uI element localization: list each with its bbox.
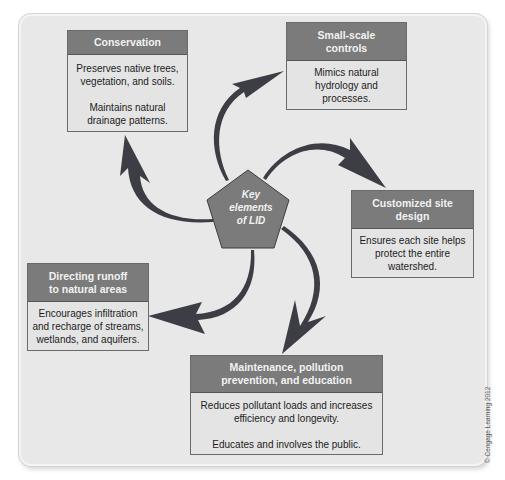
copyright-credit: © Cengage Learning 2012 (484, 387, 491, 463)
arrow-to-conservation (120, 135, 213, 222)
node-body: Ensures each site helps protect the enti… (352, 229, 473, 273)
node-directing-runoff: Directing runoff to natural areas Encour… (27, 263, 149, 351)
arrow-to-maintenance (281, 226, 326, 354)
node-body: Preserves native trees, vegetation, and … (68, 55, 187, 127)
node-conservation: Conservation Preserves native trees, veg… (67, 30, 188, 132)
node-title: Customized site design (352, 191, 473, 229)
node-title: Small-scale controls (287, 23, 406, 61)
node-body: Encourages infiltration and recharge of … (28, 302, 148, 346)
center-label: Key elements of LID (211, 188, 291, 227)
arrow-to-small-scale-controls (214, 71, 284, 181)
node-body: Reduces pollutant loads and increases ef… (191, 393, 382, 451)
node-title: Conservation (68, 31, 187, 55)
arrow-to-directing-runoff (148, 250, 254, 334)
node-customized-site-design: Customized site design Ensures each site… (351, 190, 474, 278)
node-small-scale-controls: Small-scale controls Mimics natural hydr… (286, 22, 407, 110)
node-title: Directing runoff to natural areas (28, 264, 148, 302)
node-title: Maintenance, pollution prevention, and e… (191, 356, 382, 393)
node-maintenance: Maintenance, pollution prevention, and e… (190, 355, 383, 455)
node-body: Mimics natural hydrology and processes. (287, 61, 406, 105)
arrow-to-customized-site-design (263, 138, 386, 188)
